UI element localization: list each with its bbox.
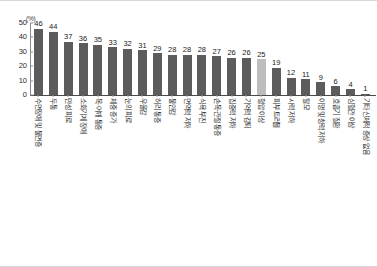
- bar-slot: 46: [31, 23, 46, 95]
- bar[interactable]: [34, 29, 43, 95]
- bar[interactable]: [93, 45, 102, 95]
- category-label: 호흡기 질환: [332, 98, 339, 128]
- x-tick-mark: [335, 95, 336, 97]
- x-tick-mark: [231, 95, 232, 97]
- x-tick-mark: [261, 95, 262, 97]
- x-tick-mark: [320, 95, 321, 97]
- bar[interactable]: [227, 58, 236, 95]
- bar[interactable]: [272, 68, 281, 95]
- x-tick-mark: [38, 95, 39, 97]
- bar[interactable]: [212, 56, 221, 95]
- category-label-slot: 수면장애 및 불면증: [31, 98, 46, 248]
- bar-value-label: 35: [94, 36, 102, 44]
- plot-area: 50403020100 4644373635333231292828282726…: [30, 23, 372, 95]
- bar-slot: 28: [180, 23, 195, 95]
- category-label-slot: 집중력 저하: [224, 98, 239, 248]
- bar[interactable]: [301, 79, 310, 95]
- x-tick-mark: [350, 95, 351, 97]
- bar-slot: 44: [46, 23, 61, 95]
- x-tick-mark: [157, 95, 158, 97]
- bar[interactable]: [79, 43, 88, 95]
- bar-slot: 12: [284, 23, 299, 95]
- bar-value-label: 28: [183, 46, 191, 54]
- bar-value-label: 19: [272, 59, 280, 67]
- x-axis-category-labels: 수면장애 및 불면증두통만성 피로소화기계 장애목·어깨 통증체중 증가눈의 피…: [31, 98, 373, 258]
- category-label-slot: 목·어깨 통증: [90, 98, 105, 248]
- chart-figure: (%) 50403020100 464437363533323129282828…: [0, 0, 377, 267]
- bar[interactable]: [331, 86, 340, 95]
- bar-value-label: 9: [319, 74, 323, 82]
- category-label-slot: 기타 신체적 증상 없음: [358, 98, 373, 248]
- bar[interactable]: [153, 53, 162, 95]
- category-label: 시력 저하: [288, 98, 295, 122]
- bar[interactable]: [49, 32, 58, 95]
- category-label: 심혈관 이상: [347, 98, 354, 128]
- bar-slot: 6: [328, 23, 343, 95]
- bar[interactable]: [168, 55, 177, 95]
- bar-value-label: 26: [242, 49, 250, 57]
- bar[interactable]: [242, 58, 251, 95]
- category-label-slot: 손목·관절 통증: [209, 98, 224, 248]
- bar-slot: 1: [358, 23, 373, 95]
- category-label: 두통: [50, 98, 57, 109]
- category-label-slot: 두통: [46, 98, 61, 248]
- bar-value-label: 31: [138, 42, 146, 50]
- category-label-slot: 만성 피로: [61, 98, 76, 248]
- category-label: 손목·관절 통증: [213, 98, 220, 136]
- bar-value-label: 4: [348, 81, 352, 89]
- category-label-slot: 우울감: [135, 98, 150, 248]
- bar[interactable]: [257, 59, 266, 95]
- bar-value-label: 28: [198, 46, 206, 54]
- category-label: 체중 증가: [109, 98, 116, 122]
- x-tick-mark: [172, 95, 173, 97]
- bar-slot: 37: [61, 23, 76, 95]
- bar-slot: 35: [90, 23, 105, 95]
- x-tick-mark: [127, 95, 128, 97]
- bar-value-label: 29: [153, 45, 161, 53]
- y-tick-label: 50: [19, 19, 30, 27]
- category-label: 불안감: [169, 98, 176, 115]
- bar-value-label: 46: [34, 20, 42, 28]
- bar-slot: 32: [120, 23, 135, 95]
- bar[interactable]: [123, 49, 132, 95]
- bar-value-label: 6: [334, 78, 338, 86]
- bar[interactable]: [138, 50, 147, 95]
- bar-value-label: 44: [49, 23, 57, 31]
- x-tick-mark: [97, 95, 98, 97]
- x-tick-mark: [142, 95, 143, 97]
- bar-value-label: 27: [213, 48, 221, 56]
- category-label: 식욕 부진: [198, 98, 205, 122]
- category-label: 면역력 저하: [183, 98, 190, 128]
- bar-slot: 11: [298, 23, 313, 95]
- bar[interactable]: [64, 42, 73, 95]
- x-tick-mark: [276, 95, 277, 97]
- bar-slot: 31: [135, 23, 150, 95]
- bar-slot: 29: [150, 23, 165, 95]
- category-label: 혈압 이상: [258, 98, 265, 122]
- bar-slot: 28: [194, 23, 209, 95]
- bar[interactable]: [287, 78, 296, 95]
- category-label-slot: 체중 증가: [105, 98, 120, 248]
- bar-value-label: 25: [257, 51, 265, 59]
- bar[interactable]: [108, 47, 117, 95]
- category-label-slot: 눈의 피로: [120, 98, 135, 248]
- bar-value-label: 1: [363, 85, 367, 93]
- category-label-slot: 기억력 감퇴: [239, 98, 254, 248]
- bar[interactable]: [183, 55, 192, 95]
- category-label: 이명 및 청력 저하: [317, 98, 324, 143]
- bar[interactable]: [197, 55, 206, 95]
- x-tick-mark: [53, 95, 54, 97]
- bar-slot: 27: [209, 23, 224, 95]
- bar-value-label: 32: [123, 40, 131, 48]
- bar-slot: 26: [239, 23, 254, 95]
- bar[interactable]: [316, 82, 325, 95]
- category-label-slot: 탈모: [299, 98, 314, 248]
- bar-value-label: 12: [287, 69, 295, 77]
- y-tick-label: 10: [19, 77, 30, 85]
- x-tick-mark: [83, 95, 84, 97]
- bar-value-label: 11: [302, 71, 310, 79]
- x-tick-mark: [68, 95, 69, 97]
- x-tick-mark: [305, 95, 306, 97]
- category-label: 탈모: [302, 98, 309, 109]
- bar-slot: 9: [313, 23, 328, 95]
